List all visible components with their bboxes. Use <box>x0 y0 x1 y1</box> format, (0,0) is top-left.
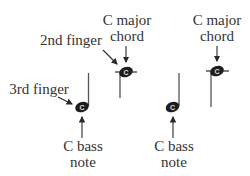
note-letter: C <box>79 104 84 111</box>
label-c-major-chord-left: C major chord <box>97 12 157 44</box>
label-3rd-finger: 3rd finger <box>8 81 70 97</box>
music-notation-diagram: C C C C C major cho <box>0 0 250 176</box>
label-c-major-chord-right: C major chord <box>187 12 247 44</box>
bass-note-left: C <box>74 73 91 114</box>
chord-note-left: C <box>115 65 137 98</box>
note-letter: C <box>214 68 219 75</box>
note-letter: C <box>123 69 128 76</box>
chord-note-right: C <box>206 64 229 107</box>
bass-note-right: C <box>164 73 181 114</box>
label-2nd-finger: 2nd finger <box>38 32 104 48</box>
arrow-diagonal-icon <box>103 50 117 64</box>
label-c-bass-note-right: C bass note <box>144 138 204 170</box>
label-c-bass-note-left: C bass note <box>53 138 113 170</box>
arrow-diagonal-icon <box>58 97 72 104</box>
note-letter: C <box>170 104 175 111</box>
